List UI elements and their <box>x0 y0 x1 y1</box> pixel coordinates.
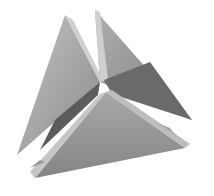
tetrahedral-shape-render <box>0 0 214 196</box>
triangle-planes-illustration <box>0 0 214 196</box>
